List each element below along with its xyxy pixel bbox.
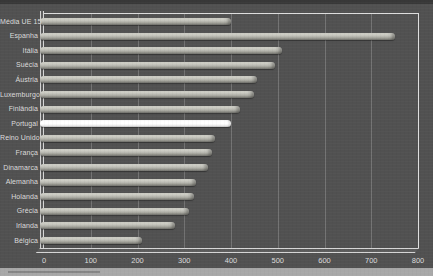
x-tick-label-0: 0: [29, 256, 59, 265]
x-tick-label-800: 800: [403, 256, 433, 265]
scanned-chart-page: Média UE 15EspanhaItáliaSuéciaÁustriaLux…: [0, 0, 433, 276]
x-axis-labels: 0100200300400500600700800: [0, 0, 433, 276]
x-tick-label-700: 700: [356, 256, 386, 265]
x-tick-label-600: 600: [310, 256, 340, 265]
x-tick-label-100: 100: [76, 256, 106, 265]
x-tick-label-300: 300: [169, 256, 199, 265]
scan-artifact-line: [8, 271, 100, 273]
x-tick-label-200: 200: [123, 256, 153, 265]
x-tick-label-500: 500: [263, 256, 293, 265]
x-tick-label-400: 400: [216, 256, 246, 265]
